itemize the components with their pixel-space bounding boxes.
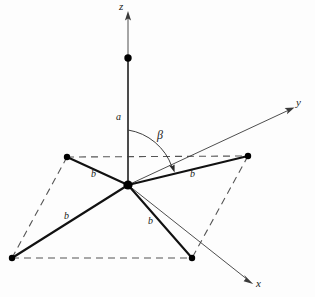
atom-upper-left [64,154,70,160]
bond-length-label-b-lower-left: b [64,211,69,221]
dashed-edge-top [67,156,248,157]
atom-center [123,180,132,189]
bond-length-label-b-right: b [190,169,195,179]
x-axis-line [128,185,248,280]
bond-length-label-b-lower-right: b [148,216,153,226]
bond-b-low-left [12,185,128,258]
y-axis-arrowhead [285,107,295,114]
bond-b-up-left [67,157,128,185]
atom-upper-right [245,153,251,159]
coordinate-axes [125,11,295,284]
bond-length-label-b-left: b [91,169,96,179]
y-axis-line [128,110,289,185]
basal-plane-dashed-outline [12,156,248,258]
bond-group [12,58,248,258]
bond-b-up-right [128,156,248,185]
axis-label-x: x [256,278,261,289]
beta-angle-arc [128,130,172,167]
bond-b-low-right [128,185,192,258]
dashed-edge-left [12,157,67,258]
axis-label-z: z [119,1,123,12]
atom-lower-right [189,255,195,261]
x-axis-arrowhead [244,275,254,284]
beta-angle-arc-group [128,130,175,172]
atom-group [9,54,251,261]
atom-apex [124,54,131,61]
bond-length-label-a: a [116,112,121,122]
diagram-canvas: z y x a β b b b b [0,0,315,297]
angle-label-beta: β [157,129,163,141]
axis-label-y: y [296,97,301,108]
atom-lower-left [9,255,15,261]
diagram-svg [0,0,315,297]
